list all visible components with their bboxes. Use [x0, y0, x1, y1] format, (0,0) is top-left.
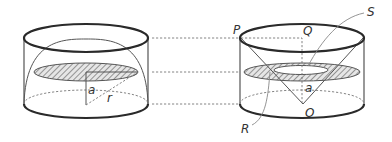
left-base-front-edge [24, 104, 148, 118]
label-r-ring: R [241, 122, 249, 136]
cavalieri-diagram: a r P Q S R O a [0, 0, 392, 142]
label-a-right: a [305, 81, 312, 95]
label-s: S [367, 5, 375, 19]
leader-s [308, 13, 364, 66]
label-p: P [233, 23, 241, 37]
label-q: Q [303, 24, 312, 38]
guide-lines [152, 38, 240, 104]
right-base-front-edge [240, 104, 364, 118]
right-solid: P Q S R O a [233, 5, 375, 136]
label-a-left: a [88, 83, 95, 97]
label-o: O [305, 106, 314, 120]
left-top-rim [24, 24, 148, 52]
left-solid: a r [24, 24, 148, 118]
label-r: r [107, 91, 113, 105]
leader-r [252, 72, 270, 125]
